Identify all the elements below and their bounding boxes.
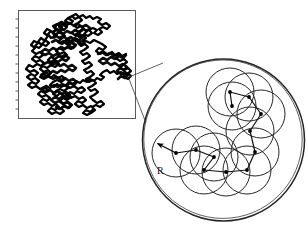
radius-label: R <box>157 166 164 176</box>
chain-node <box>253 150 257 154</box>
leader-line-upper <box>129 63 163 77</box>
radius-arrow-line <box>158 144 177 154</box>
chain-node <box>248 129 252 133</box>
random-walk-panel <box>16 11 136 119</box>
chain-node <box>202 168 206 172</box>
coarse-grained-path <box>176 92 261 172</box>
chain-node <box>228 90 232 94</box>
chain-node <box>230 104 234 108</box>
chain-node <box>224 170 228 174</box>
chain-node <box>194 148 198 152</box>
figure-svg <box>0 0 308 230</box>
coarse-grained-circles <box>152 68 285 196</box>
radius-arrow <box>158 144 177 154</box>
leader-line-lower <box>129 79 146 123</box>
chain-node <box>247 95 251 99</box>
chain-node <box>245 168 249 172</box>
chain-node <box>212 155 216 159</box>
chain-node <box>259 112 263 116</box>
figure-canvas: R <box>0 0 308 230</box>
